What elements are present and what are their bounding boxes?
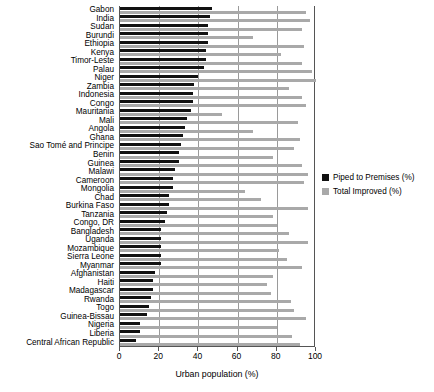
y-axis-category-labels: GabonIndiaSudanBurundiEthiopiaKenyaTimor…: [0, 6, 117, 347]
bar-row: [120, 117, 314, 126]
legend-item: Total Improved (%): [322, 186, 414, 197]
bar-piped-to-premises: [120, 254, 161, 257]
x-tick-label: 40: [193, 352, 202, 361]
bar-total-improved: [120, 275, 273, 278]
bar-piped-to-premises: [120, 262, 161, 265]
x-axis-ticks: 020406080100: [119, 347, 315, 357]
bar-total-improved: [120, 79, 316, 82]
bar-piped-to-premises: [120, 126, 185, 129]
legend-item: Piped to Premises (%): [322, 172, 414, 183]
bar-piped-to-premises: [120, 288, 153, 291]
chart-legend: Piped to Premises (%)Total Improved (%): [322, 172, 414, 200]
bar-row: [120, 253, 314, 262]
bar-row: [120, 142, 314, 151]
bar-piped-to-premises: [120, 211, 167, 214]
bar-piped-to-premises: [120, 92, 193, 95]
bar-piped-to-premises: [120, 279, 153, 282]
bar-total-improved: [120, 164, 302, 167]
bar-piped-to-premises: [120, 339, 136, 342]
bar-piped-to-premises: [120, 100, 193, 103]
bar-row: [120, 100, 314, 109]
bar-piped-to-premises: [120, 134, 183, 137]
bar-piped-to-premises: [120, 32, 208, 35]
bar-row: [120, 313, 314, 322]
y-axis-label: Malawi: [89, 168, 114, 176]
bar-total-improved: [120, 283, 267, 286]
bar-total-improved: [120, 138, 300, 141]
bar-row: [120, 270, 314, 279]
bar-row: [120, 287, 314, 296]
x-tick-label: 60: [232, 352, 241, 361]
x-tick-label: 20: [153, 352, 162, 361]
bar-row: [120, 168, 314, 177]
bar-total-improved: [120, 224, 277, 227]
legend-label: Piped to Premises (%): [333, 172, 414, 183]
bar-row: [120, 304, 314, 313]
bar-piped-to-premises: [120, 49, 206, 52]
bar-total-improved: [120, 45, 304, 48]
bar-row: [120, 23, 314, 32]
bar-piped-to-premises: [120, 228, 161, 231]
bar-piped-to-premises: [120, 203, 169, 206]
plot-area: [119, 6, 315, 347]
bar-row: [120, 177, 314, 186]
bar-piped-to-premises: [120, 220, 165, 223]
bar-row: [120, 330, 314, 339]
x-axis-title: Urban population (%): [119, 369, 315, 379]
bar-row: [120, 279, 314, 288]
bar-row: [120, 245, 314, 254]
bar-row: [120, 202, 314, 211]
bar-total-improved: [120, 147, 294, 150]
bar-row: [120, 296, 314, 305]
bar-piped-to-premises: [120, 245, 161, 248]
bar-row: [120, 40, 314, 49]
bar-piped-to-premises: [120, 143, 181, 146]
bar-rows: [120, 6, 314, 346]
bar-row: [120, 125, 314, 134]
bar-piped-to-premises: [120, 296, 151, 299]
bar-total-improved: [120, 96, 302, 99]
bar-piped-to-premises: [120, 15, 210, 18]
bar-total-improved: [120, 19, 310, 22]
bar-chart: GabonIndiaSudanBurundiEthiopiaKenyaTimor…: [0, 0, 434, 392]
bar-piped-to-premises: [120, 24, 208, 27]
bar-piped-to-premises: [120, 186, 173, 189]
bar-row: [120, 219, 314, 228]
bar-piped-to-premises: [120, 271, 155, 274]
bar-piped-to-premises: [120, 66, 204, 69]
bar-total-improved: [120, 335, 292, 338]
bar-piped-to-premises: [120, 194, 169, 197]
bar-piped-to-premises: [120, 177, 173, 180]
bar-row: [120, 91, 314, 100]
y-axis-label: Central African Republic: [26, 339, 114, 347]
bar-row: [120, 211, 314, 220]
bar-piped-to-premises: [120, 58, 206, 61]
bar-total-improved: [120, 121, 298, 124]
bar-piped-to-premises: [120, 83, 194, 86]
bar-total-improved: [120, 53, 281, 56]
bar-total-improved: [120, 28, 302, 31]
bar-total-improved: [120, 215, 273, 218]
bar-row: [120, 262, 314, 271]
bar-total-improved: [120, 36, 253, 39]
bar-total-improved: [120, 113, 222, 116]
bar-row: [120, 83, 314, 92]
bar-piped-to-premises: [120, 160, 179, 163]
bar-row: [120, 194, 314, 203]
bar-total-improved: [120, 130, 253, 133]
bar-row: [120, 108, 314, 117]
bar-total-improved: [120, 87, 289, 90]
bar-piped-to-premises: [120, 313, 147, 316]
bar-row: [120, 151, 314, 160]
bar-piped-to-premises: [120, 75, 198, 78]
bar-total-improved: [120, 309, 294, 312]
bar-row: [120, 338, 314, 347]
y-axis-label: Liberia: [89, 330, 114, 338]
bar-row: [120, 57, 314, 66]
bar-piped-to-premises: [120, 168, 175, 171]
bar-row: [120, 6, 314, 15]
bar-total-improved: [120, 173, 308, 176]
bar-total-improved: [120, 198, 261, 201]
bar-row: [120, 134, 314, 143]
bar-total-improved: [120, 343, 300, 346]
